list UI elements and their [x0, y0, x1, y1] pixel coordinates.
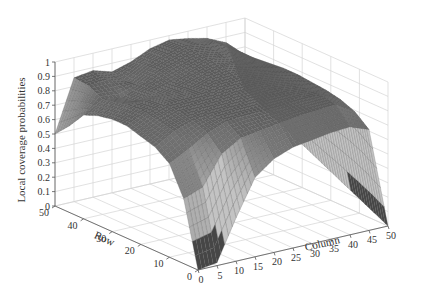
x-tick-label: 45 [367, 234, 377, 245]
surface-plot: 00.10.20.30.40.50.60.70.80.9101020304050… [0, 0, 426, 293]
y-tick-label: 20 [125, 245, 135, 256]
z-tick-label: 0.2 [38, 172, 51, 183]
x-tick-label: 50 [386, 230, 396, 241]
z-tick-label: 0.3 [38, 157, 51, 168]
x-tick-label: 15 [253, 261, 263, 272]
x-tick-label: 20 [272, 256, 282, 267]
y-tick-label: 10 [153, 258, 163, 269]
z-tick-label: 0.7 [38, 100, 51, 111]
z-tick-label: 0.5 [38, 129, 51, 140]
z-tick-label: 0.6 [38, 114, 51, 125]
x-tick-label: 25 [291, 252, 301, 263]
z-tick-label: 0.1 [38, 186, 51, 197]
x-tick-label: 5 [218, 270, 223, 281]
x-tick-label: 0 [199, 274, 204, 285]
y-tick-label: 0 [187, 271, 192, 282]
z-tick-label: 1 [45, 57, 50, 68]
y-tick-label: 40 [68, 220, 78, 231]
z-axis-label: Local coverage probabilities [15, 77, 27, 202]
x-tick-label: 10 [234, 265, 244, 276]
z-tick-label: 0.9 [38, 71, 51, 82]
z-tick-label: 0.4 [38, 143, 51, 154]
x-tick-label: 40 [348, 239, 358, 250]
z-tick-label: 0.8 [38, 85, 51, 96]
y-tick-label: 50 [39, 207, 49, 218]
